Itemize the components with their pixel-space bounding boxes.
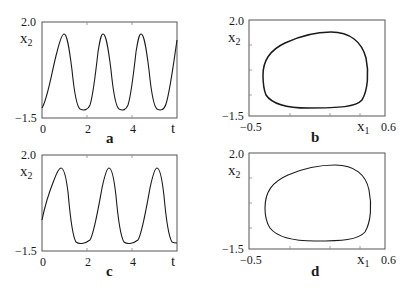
panel-d: 2.0 x2 −1.5 −0.5 x1 0.6 d xyxy=(0,0,402,288)
panel-d-label: d xyxy=(311,264,319,279)
panel-d-xtick-left: −0.5 xyxy=(240,254,262,266)
panel-d-ytick-top: 2.0 xyxy=(229,148,244,160)
panel-d-xlabel: x1 xyxy=(357,252,370,269)
panel-d-xtick-right: 0.6 xyxy=(381,254,396,266)
panel-d-ylabel: x2 xyxy=(228,163,241,180)
